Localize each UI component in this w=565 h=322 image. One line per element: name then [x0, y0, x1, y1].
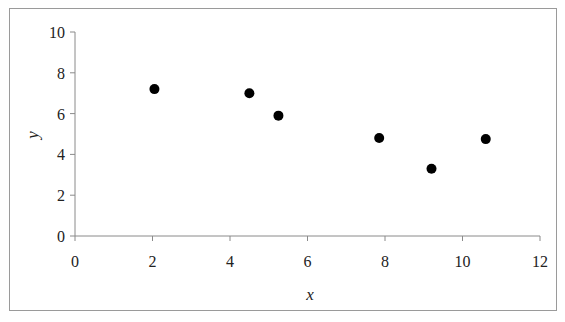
- data-point: [273, 111, 283, 121]
- axes: [75, 32, 540, 236]
- x-tick-label: 12: [532, 253, 548, 270]
- y-tick-label: 2: [57, 187, 65, 204]
- x-tick-label: 8: [381, 253, 389, 270]
- x-axis-ticks: 024681012: [71, 236, 548, 270]
- x-tick-label: 2: [149, 253, 157, 270]
- y-tick-label: 6: [57, 106, 65, 123]
- x-tick-label: 0: [71, 253, 79, 270]
- y-tick-label: 8: [57, 65, 65, 82]
- x-tick-label: 6: [304, 253, 312, 270]
- data-point: [244, 88, 254, 98]
- data-point: [374, 133, 384, 143]
- x-tick-label: 4: [226, 253, 234, 270]
- x-axis-title: x: [305, 285, 314, 304]
- y-axis-ticks: 0246810: [49, 24, 75, 245]
- scatter-chart: 024681012 0246810 x y: [0, 0, 565, 322]
- data-point: [481, 134, 491, 144]
- data-points: [149, 84, 490, 174]
- data-point: [427, 164, 437, 174]
- y-tick-label: 0: [57, 228, 65, 245]
- x-tick-label: 10: [455, 253, 471, 270]
- data-point: [149, 84, 159, 94]
- y-tick-label: 4: [57, 146, 65, 163]
- y-tick-label: 10: [49, 24, 65, 41]
- y-axis-title: y: [23, 131, 42, 141]
